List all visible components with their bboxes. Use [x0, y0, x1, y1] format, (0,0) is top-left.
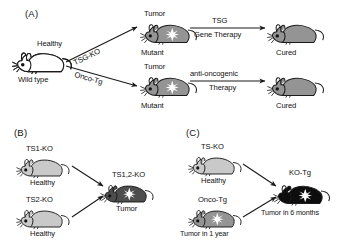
onco-tg-bottom-label: Tumor in 1 year: [180, 229, 229, 238]
wild-type-mouse-top-label: Healthy: [37, 39, 62, 48]
ko-tg-mouse: [273, 186, 329, 206]
ts-ko-bottom-label: Healthy: [201, 176, 226, 185]
arrow-label-therapy: Therapy: [209, 83, 236, 92]
ko-tg-top-label: KO-Tg: [289, 168, 311, 177]
ts2-ko-mouse: [16, 210, 69, 229]
panel-label-a: (A): [25, 8, 38, 19]
cured-mouse-top-label: Cured: [276, 48, 296, 57]
panel-label-c: (C): [186, 127, 200, 138]
arrow-label-anti-oncogenic: anti-oncogenic: [190, 69, 238, 78]
cured-mouse-bottom: [267, 78, 323, 98]
ts2-ko-top-label: TS2-KO: [26, 195, 53, 204]
ts1-ko-top-label: TS1-KO: [26, 144, 53, 153]
arrow-label-tsg: TSG: [212, 16, 227, 25]
figure-canvas: (A) Healthy Wild type Tumor Mutant Tumor…: [0, 0, 354, 249]
wild-type-mouse: [12, 53, 71, 74]
arrow-tsko-to-kotg: [243, 164, 276, 186]
ts12-ko-bottom-label: Tumor: [116, 204, 137, 213]
onco-tg-mutant-bottom-label: Mutant: [141, 101, 164, 110]
onco-tg-mouse: [188, 210, 241, 229]
wild-type-mouse-bottom-label: Wild type: [18, 75, 48, 84]
cured-mouse-bottom-label: Cured: [276, 101, 296, 110]
ts-ko-mouse: [188, 157, 241, 176]
tsg-ko-mutant-top-label: Tumor: [144, 9, 165, 18]
cured-mouse-top: [267, 25, 323, 45]
arrow-ts1-to-double: [72, 166, 103, 186]
tsg-ko-mutant-mouse: [140, 25, 196, 45]
ts12-ko-top-label: TS1,2-KO: [112, 170, 145, 179]
onco-tg-mutant-mouse: [140, 78, 196, 98]
onco-tg-top-label: Onco-Tg: [198, 195, 227, 204]
ts1-ko-bottom-label: Healthy: [30, 178, 55, 187]
ts-ko-top-label: TS-KO: [201, 142, 224, 151]
ts12-ko-mouse: [100, 185, 153, 204]
tsg-ko-mutant-bottom-label: Mutant: [141, 48, 164, 57]
ts1-ko-mouse: [16, 159, 69, 178]
arrow-ts2-to-double: [72, 196, 103, 217]
onco-tg-mutant-top-label: Tumor: [144, 62, 165, 71]
panel-label-b: (B): [14, 127, 27, 138]
arrow-label-gene-therapy: Gene Therapy: [194, 30, 241, 39]
ko-tg-bottom-label: Tumor in 6 months: [261, 208, 319, 217]
ts2-ko-bottom-label: Healthy: [30, 229, 55, 238]
